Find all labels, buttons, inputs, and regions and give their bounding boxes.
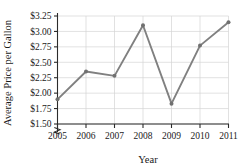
y-tick-label: $2.50 [30, 58, 52, 68]
data-point-marker [170, 102, 174, 106]
x-tick-label: 2006 [77, 131, 96, 141]
data-point-marker [198, 44, 202, 48]
x-tick-label: 2008 [134, 131, 153, 141]
y-tick-label: $3.00 [30, 27, 52, 37]
line-chart: $1.50$1.75$2.00$2.25$2.50$2.75$3.00$3.25… [0, 0, 245, 166]
data-point-marker [56, 97, 60, 101]
x-axis-title: Year [138, 154, 158, 165]
data-point-marker [84, 70, 88, 74]
x-tick-label: 2005 [48, 131, 67, 141]
y-axis-tick-labels: $1.50$1.75$2.00$2.25$2.50$2.75$3.00$3.25 [30, 11, 52, 129]
y-tick-label: $1.75 [30, 104, 52, 114]
y-tick-label: $2.75 [30, 42, 52, 52]
vertical-gridlines [58, 16, 229, 124]
y-tick-label: $1.50 [30, 119, 52, 129]
x-tick-label: 2009 [162, 131, 181, 141]
x-tick-label: 2010 [191, 131, 210, 141]
data-point-marker [141, 23, 145, 27]
y-axis-title: Average Price per Gallon [2, 19, 13, 126]
data-point-marker [113, 74, 117, 78]
y-tick-label: $2.00 [30, 88, 52, 98]
y-tick-label: $2.25 [30, 73, 52, 83]
data-point-marker [227, 20, 231, 24]
x-tick-label: 2011 [219, 131, 238, 141]
x-axis-tick-labels: 2005200620072008200920102011 [48, 131, 238, 141]
chart-canvas: $1.50$1.75$2.00$2.25$2.50$2.75$3.00$3.25… [0, 0, 245, 166]
x-axis-ticks [58, 124, 229, 128]
x-tick-label: 2007 [105, 131, 124, 141]
y-tick-label: $3.25 [30, 11, 52, 21]
